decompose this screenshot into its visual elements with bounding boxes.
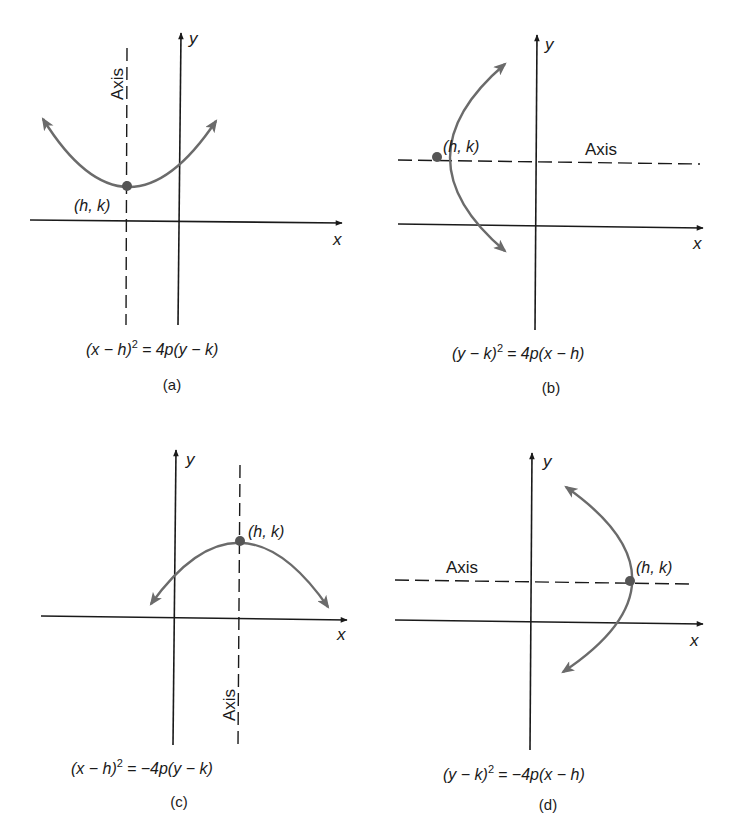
axis-of-symmetry: [398, 160, 700, 164]
vertex-label: (h, k): [248, 523, 284, 540]
axis-label: Axis: [108, 68, 127, 100]
x-label: x: [689, 631, 699, 650]
parabola-curve: [563, 487, 632, 672]
x-label: x: [692, 234, 702, 253]
axis-label: Axis: [585, 140, 617, 159]
y-label: y: [542, 452, 553, 471]
panel-caption: (c): [170, 793, 188, 810]
x-label: x: [332, 230, 342, 249]
y-axis: [535, 35, 537, 330]
parabola-figure: y x Axis (h, k) (x − h)2= 4p(y − k) (a) …: [0, 0, 730, 835]
panel-caption: (d): [539, 796, 557, 813]
panel-caption: (b): [542, 379, 560, 396]
y-label: y: [544, 35, 555, 54]
panel-d: y x Axis (h, k) (y − k)2= −4p(x − h) (d): [395, 452, 703, 813]
x-axis: [395, 620, 703, 624]
panel-c: y x Axis (h, k) (x − h)2= −4p(y − k) (c): [41, 450, 347, 810]
vertex-point: [432, 152, 442, 162]
panel-b: y x Axis (h, k) (y − k)2= 4p(x − h) (b): [398, 35, 703, 396]
vertex-label: (h, k): [74, 197, 110, 214]
parabola-curve: [43, 119, 216, 187]
panel-caption: (a): [163, 376, 181, 393]
equation-lhs: (x − h)2= 4p(y − k): [86, 338, 218, 358]
x-axis: [30, 220, 342, 223]
y-axis: [530, 453, 532, 750]
equation-lhs: (x − h)2= −4p(y − k): [71, 757, 213, 777]
y-label: y: [188, 29, 199, 48]
vertex-point: [235, 536, 245, 546]
parabola-curve: [450, 64, 505, 251]
vertex-label: (h, k): [636, 559, 672, 576]
axis-of-symmetry: [395, 580, 690, 584]
x-label: x: [336, 625, 346, 644]
vertex-point: [122, 181, 132, 191]
x-axis: [398, 224, 703, 228]
y-axis: [178, 33, 181, 325]
y-axis: [173, 450, 176, 745]
axis-label: Axis: [446, 558, 478, 577]
y-label: y: [185, 450, 196, 469]
vertex-label: (h, k): [443, 138, 479, 155]
equation-lhs: (y − k)2= −4p(x − h): [443, 763, 585, 783]
vertex-point: [625, 576, 635, 586]
axis-label: Axis: [220, 689, 239, 721]
equation-lhs: (y − k)2= 4p(x − h): [452, 342, 584, 362]
panel-a: y x Axis (h, k) (x − h)2= 4p(y − k) (a): [30, 29, 342, 393]
x-axis: [41, 616, 347, 620]
